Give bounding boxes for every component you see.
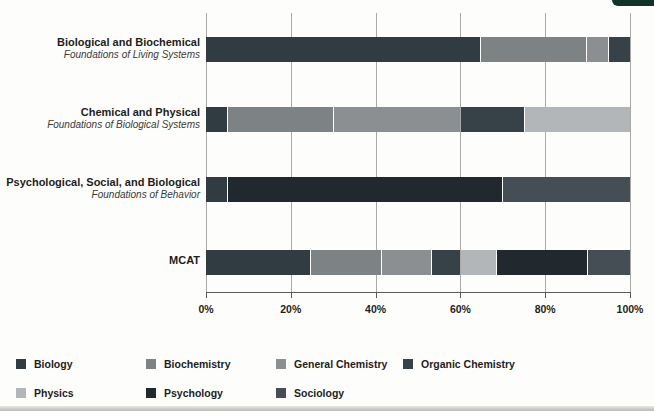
segment-organic-chemistry	[609, 37, 630, 62]
legend-swatch	[16, 359, 26, 369]
segment-biochemistry	[228, 107, 333, 132]
axis-tick-label: 40%	[351, 303, 401, 315]
plot-area	[206, 13, 630, 292]
legend-label: Organic Chemistry	[421, 358, 515, 370]
axis-tick	[291, 292, 292, 298]
x-axis-line	[206, 292, 631, 293]
axis-tick	[630, 292, 631, 298]
legend-label: Psychology	[164, 387, 223, 399]
stacked-bar-chart: Biological and BiochemicalFoundations of…	[0, 0, 654, 340]
axis-tick	[460, 292, 461, 298]
row-label: MCAT	[0, 254, 200, 267]
bar-row	[206, 37, 630, 62]
row-label-subtitle: Foundations of Biological Systems	[0, 119, 200, 131]
legend-swatch	[403, 359, 413, 369]
segment-general-chemistry	[382, 250, 431, 275]
segment-biochemistry	[481, 37, 586, 62]
segment-psychology	[228, 177, 502, 202]
row-label: Biological and BiochemicalFoundations of…	[0, 36, 200, 61]
legend-swatch	[16, 388, 26, 398]
legend-label: Sociology	[294, 387, 344, 399]
gridline-100	[630, 13, 631, 292]
page: { "page": { "corner_tab_color": "#12332b…	[0, 0, 654, 411]
legend-swatch	[146, 388, 156, 398]
legend-label: Physics	[34, 387, 74, 399]
axis-tick-label: 0%	[181, 303, 231, 315]
segment-physics	[525, 107, 630, 132]
axis-tick	[376, 292, 377, 298]
segment-biochemistry	[311, 250, 381, 275]
legend-item-psychology: Psychology	[146, 387, 276, 399]
segment-physics	[461, 250, 496, 275]
segment-biology	[206, 250, 310, 275]
bar-row	[206, 107, 630, 132]
legend-swatch	[276, 388, 286, 398]
row-label-title: Psychological, Social, and Biological	[0, 176, 200, 189]
legend-label: Biology	[34, 358, 73, 370]
row-label-subtitle: Foundations of Behavior	[0, 189, 200, 201]
axis-tick	[206, 292, 207, 298]
axis-tick	[545, 292, 546, 298]
legend-label: Biochemistry	[164, 358, 231, 370]
axis-tick-label: 20%	[266, 303, 316, 315]
bar-row	[206, 250, 630, 275]
row-label-title: MCAT	[0, 254, 200, 267]
segment-psychology	[497, 250, 588, 275]
legend-label: General Chemistry	[294, 358, 387, 370]
legend-item-biochemistry: Biochemistry	[146, 358, 276, 370]
segment-general-chemistry	[587, 37, 608, 62]
legend: BiologyBiochemistryGeneral ChemistryOrga…	[16, 358, 640, 399]
legend-item-physics: Physics	[16, 387, 146, 399]
axis-tick-label: 60%	[435, 303, 485, 315]
page-bottom-edge	[0, 406, 654, 411]
axis-tick-label: 100%	[605, 303, 654, 315]
legend-item-sociology: Sociology	[276, 387, 403, 399]
row-label: Chemical and PhysicalFoundations of Biol…	[0, 106, 200, 131]
row-label-title: Chemical and Physical	[0, 106, 200, 119]
segment-organic-chemistry	[461, 107, 524, 132]
segment-biology	[206, 107, 227, 132]
legend-item-biology: Biology	[16, 358, 146, 370]
segment-general-chemistry	[334, 107, 460, 132]
segment-biology	[206, 177, 227, 202]
bar-row	[206, 177, 630, 202]
row-label-subtitle: Foundations of Living Systems	[0, 49, 200, 61]
segment-organic-chemistry	[432, 250, 460, 275]
segment-sociology	[503, 177, 630, 202]
legend-swatch	[146, 359, 156, 369]
row-label-title: Biological and Biochemical	[0, 36, 200, 49]
segment-sociology	[588, 250, 630, 275]
row-label: Psychological, Social, and BiologicalFou…	[0, 176, 200, 201]
legend-item-general-chemistry: General Chemistry	[276, 358, 403, 370]
legend-item-organic-chemistry: Organic Chemistry	[403, 358, 640, 370]
axis-tick-label: 80%	[520, 303, 570, 315]
legend-swatch	[276, 359, 286, 369]
segment-biology	[206, 37, 480, 62]
